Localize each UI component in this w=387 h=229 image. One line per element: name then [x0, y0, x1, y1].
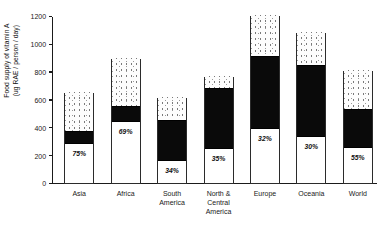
- bar-percent-label: 32%: [251, 135, 279, 142]
- bar-group[interactable]: 55%: [343, 71, 373, 184]
- bar-segment-black: [158, 120, 186, 161]
- bar-group[interactable]: 34%: [157, 98, 187, 184]
- x-category-label: Asia: [56, 189, 102, 198]
- bar-segment-stippled: [112, 58, 140, 106]
- x-axis-category-labels: AsiaAfricaSouth AmericaNorth & Central A…: [52, 189, 377, 229]
- bar-group[interactable]: 32%: [250, 16, 280, 184]
- bar-segment-stippled: [205, 76, 233, 89]
- bar-group[interactable]: 69%: [111, 59, 141, 184]
- y-tick-label: 1000: [31, 41, 47, 48]
- bar-segment-black: [297, 65, 325, 137]
- y-tick-label: 400: [34, 124, 46, 131]
- y-tick-label: 200: [34, 152, 46, 159]
- bars-layer: 75%69%34%35%32%30%55%: [52, 17, 377, 184]
- x-category-label: Africa: [102, 189, 148, 198]
- stacked-bar[interactable]: 32%: [250, 16, 280, 184]
- bar-segment-stippled: [297, 32, 325, 65]
- y-tick-label: 1200: [31, 13, 47, 20]
- bar-segment-black: [344, 109, 372, 148]
- y-tick-label: 0: [42, 180, 46, 187]
- bar-segment-stippled: [158, 97, 186, 120]
- plot-area: 020040060080010001200 75%69%34%35%32%30%…: [52, 17, 377, 184]
- x-category-label: North & Central America: [195, 189, 241, 217]
- bar-segment-black: [112, 106, 140, 122]
- stacked-bar[interactable]: 30%: [296, 33, 326, 184]
- x-category-label: South America: [149, 189, 195, 207]
- bar-percent-label: 30%: [297, 143, 325, 150]
- bar-segment-stippled: [344, 70, 372, 110]
- bar-percent-label: 69%: [112, 128, 140, 135]
- bar-percent-label: 35%: [205, 155, 233, 162]
- bar-group[interactable]: 35%: [204, 77, 234, 184]
- stacked-bar[interactable]: 35%: [204, 77, 234, 184]
- bar-segment-black: [205, 88, 233, 149]
- bar-segment-stippled: [65, 92, 93, 131]
- stacked-bar[interactable]: 55%: [343, 71, 373, 184]
- bar-segment-stippled: [251, 15, 279, 56]
- stacked-bar[interactable]: 69%: [111, 59, 141, 184]
- y-tick-label: 800: [34, 69, 46, 76]
- bar-percent-label: 55%: [344, 154, 372, 161]
- bar-group[interactable]: 30%: [296, 33, 326, 184]
- x-category-label: World: [335, 189, 381, 198]
- bar-percent-label: 75%: [65, 150, 93, 157]
- bar-group[interactable]: 75%: [64, 93, 94, 184]
- y-tick-label: 600: [34, 96, 46, 103]
- y-axis-title: Food supply of vitamin A (ug RAE / perso…: [3, 1, 20, 121]
- stacked-bar[interactable]: 34%: [157, 98, 187, 184]
- bar-segment-black: [251, 56, 279, 129]
- vitamin-a-food-supply-chart: Food supply of vitamin A (ug RAE / perso…: [0, 0, 387, 229]
- x-category-label: Oceania: [288, 189, 334, 198]
- bar-segment-black: [65, 131, 93, 144]
- x-category-label: Europe: [242, 189, 288, 198]
- stacked-bar[interactable]: 75%: [64, 93, 94, 184]
- bar-percent-label: 34%: [158, 167, 186, 174]
